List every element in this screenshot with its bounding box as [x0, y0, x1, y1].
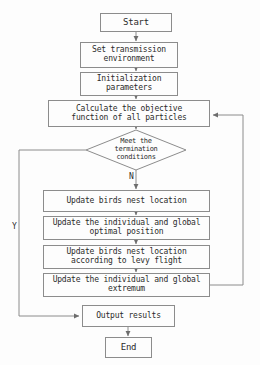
- node-output-results-label: Output results: [83, 312, 174, 321]
- node-update-optimal-position[interactable]: Update the individual and global optimal…: [43, 216, 210, 240]
- node-update-nest-levy-label: Update birds nest location according to …: [44, 248, 209, 266]
- connector-feedback-extremum-to-calculate: [210, 115, 243, 285]
- node-termination-decision-label: Meet the termination conditions: [86, 138, 186, 161]
- node-set-environment[interactable]: Set transmission environment: [80, 42, 178, 68]
- node-start-label: Start: [101, 17, 171, 27]
- flowchart-canvas: Start Set transmission environment Initi…: [0, 0, 260, 365]
- node-update-extremum[interactable]: Update the individual and global extremu…: [43, 273, 210, 297]
- node-end-label: End: [106, 342, 151, 352]
- node-initialization[interactable]: Initialization parameters: [80, 72, 178, 96]
- node-update-nest-levy[interactable]: Update birds nest location according to …: [43, 245, 210, 269]
- branch-label-yes: Y: [12, 222, 17, 231]
- node-update-nest-location-label: Update birds nest location: [44, 197, 209, 206]
- branch-label-no: N: [129, 172, 134, 181]
- node-initialization-label: Initialization parameters: [81, 75, 177, 93]
- node-set-environment-label: Set transmission environment: [81, 46, 177, 64]
- node-update-nest-location[interactable]: Update birds nest location: [43, 190, 210, 212]
- node-termination-decision[interactable]: Meet the termination conditions: [86, 130, 186, 170]
- node-start[interactable]: Start: [100, 13, 172, 32]
- node-end[interactable]: End: [105, 337, 152, 358]
- node-calculate-objective-label: Calculate the objective function of all …: [49, 105, 209, 123]
- node-output-results[interactable]: Output results: [82, 305, 175, 327]
- node-calculate-objective[interactable]: Calculate the objective function of all …: [48, 100, 210, 127]
- node-update-extremum-label: Update the individual and global extremu…: [44, 276, 209, 294]
- node-update-optimal-position-label: Update the individual and global optimal…: [44, 219, 209, 237]
